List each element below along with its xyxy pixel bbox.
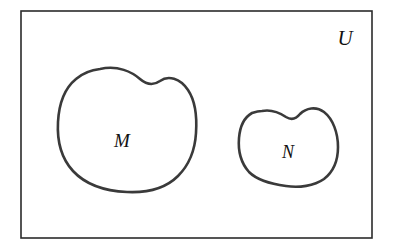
set-n-label: N xyxy=(281,142,295,162)
set-m-label: M xyxy=(113,130,131,151)
venn-diagram-figure: U M N xyxy=(0,0,393,250)
universal-set-label: U xyxy=(337,26,354,50)
venn-diagram-canvas: U M N xyxy=(0,0,393,250)
